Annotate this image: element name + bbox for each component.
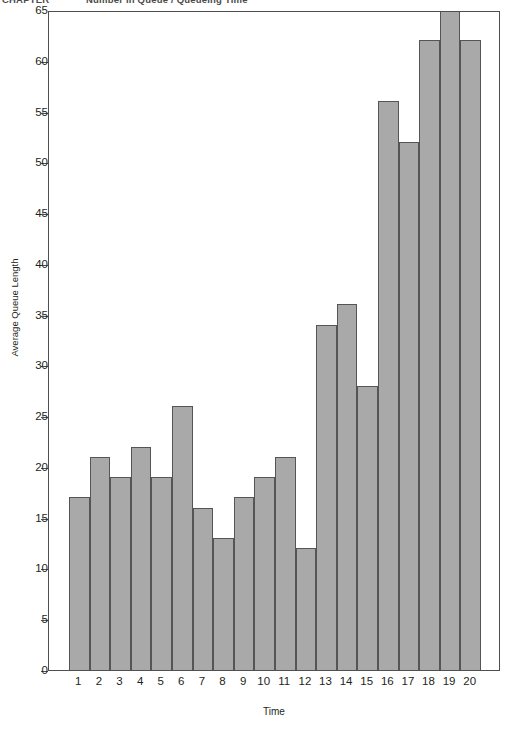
y-axis-tick-label: 40 [12, 259, 48, 271]
bar [275, 457, 296, 670]
y-axis-tick-label: 50 [12, 157, 48, 169]
bar [213, 538, 234, 670]
bar [151, 477, 172, 670]
x-axis-label: Time [48, 706, 500, 717]
y-axis-tick-label: 25 [12, 411, 48, 423]
y-axis: 05101520253035404550556065 [0, 0, 48, 733]
y-axis-tick-label: 45 [12, 208, 48, 220]
bar [193, 508, 214, 670]
bar [131, 447, 152, 670]
bar [234, 497, 255, 670]
bar-chart-figure: Average Queue Length 0510152025303540455… [0, 0, 517, 733]
y-axis-tick-label: 35 [12, 310, 48, 322]
bar [460, 40, 481, 670]
y-axis-tick-label: 5 [12, 614, 48, 626]
bar [316, 325, 337, 670]
bar [254, 477, 275, 670]
bar [172, 406, 193, 670]
y-axis-tick-label: 30 [12, 360, 48, 372]
y-axis-tick-label: 65 [12, 5, 48, 17]
plot-area [48, 11, 500, 671]
bar [337, 304, 358, 670]
bar [110, 477, 131, 670]
x-axis-tick-label: 20 [458, 675, 482, 688]
y-axis-tick-label: 55 [12, 107, 48, 119]
y-axis-tick-label: 20 [12, 462, 48, 474]
bar [69, 497, 90, 670]
bar [419, 40, 440, 670]
bar [399, 142, 420, 670]
x-axis: 1234567891011121314151617181920 [0, 675, 517, 697]
bar [296, 548, 317, 670]
y-axis-tick-label: 10 [12, 563, 48, 575]
y-axis-tick-label: 60 [12, 56, 48, 68]
y-axis-tick-label: 15 [12, 513, 48, 525]
bar [90, 457, 111, 670]
bar [357, 386, 378, 670]
bar [440, 11, 461, 670]
bar [378, 101, 399, 670]
